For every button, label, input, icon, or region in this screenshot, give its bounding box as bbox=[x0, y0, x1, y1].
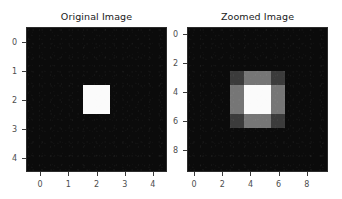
y-tick-label: 3 bbox=[12, 124, 17, 133]
image-pixel bbox=[299, 100, 313, 114]
image-pixel bbox=[216, 85, 230, 99]
image-pixel bbox=[257, 57, 271, 71]
y-tick-mark bbox=[22, 100, 26, 101]
y-tick-mark bbox=[22, 158, 26, 159]
image-pixel bbox=[83, 142, 111, 171]
x-tick-label: 8 bbox=[304, 180, 309, 189]
axes-zoomed-image bbox=[187, 27, 328, 172]
image-pixel bbox=[299, 128, 313, 142]
image-pixel bbox=[313, 100, 327, 114]
image-pixel bbox=[202, 128, 216, 142]
image-pixel bbox=[188, 100, 202, 114]
image-pixel bbox=[230, 28, 244, 42]
image-pixel bbox=[244, 100, 258, 114]
image-pixel bbox=[313, 157, 327, 171]
image-pixel bbox=[285, 28, 299, 42]
image-pixel bbox=[313, 128, 327, 142]
image-pixel bbox=[257, 157, 271, 171]
image-pixel bbox=[188, 42, 202, 56]
image-pixel bbox=[230, 85, 244, 99]
matplotlib-figure: Original Image 0123401234 Zoomed Image 0… bbox=[0, 0, 342, 199]
image-pixel bbox=[299, 71, 313, 85]
y-tick-label: 8 bbox=[173, 146, 178, 155]
image-pixel bbox=[27, 57, 55, 86]
image-pixel bbox=[230, 128, 244, 142]
image-pixel bbox=[83, 57, 111, 86]
image-pixel bbox=[271, 71, 285, 85]
image-pixel bbox=[244, 85, 258, 99]
y-tick-label: 2 bbox=[173, 59, 178, 68]
image-pixel bbox=[285, 100, 299, 114]
y-tick-mark bbox=[183, 92, 187, 93]
y-tick-mark bbox=[183, 121, 187, 122]
image-pixel bbox=[299, 57, 313, 71]
y-tick-mark bbox=[183, 150, 187, 151]
image-pixel bbox=[313, 85, 327, 99]
image-pixel bbox=[271, 28, 285, 42]
x-tick-label: 2 bbox=[94, 180, 99, 189]
x-tick-label: 6 bbox=[276, 180, 281, 189]
image-pixel bbox=[216, 57, 230, 71]
y-tick-label: 2 bbox=[12, 95, 17, 104]
image-pixel bbox=[313, 42, 327, 56]
image-pixel bbox=[216, 157, 230, 171]
y-tick-mark bbox=[22, 129, 26, 130]
y-tick-label: 6 bbox=[173, 117, 178, 126]
image-pixel bbox=[271, 42, 285, 56]
image-pixel bbox=[83, 114, 111, 143]
image-pixel bbox=[285, 42, 299, 56]
image-pixel bbox=[216, 142, 230, 156]
image-pixel bbox=[299, 28, 313, 42]
image-pixel bbox=[216, 28, 230, 42]
image-pixel bbox=[202, 42, 216, 56]
image-pixel bbox=[244, 157, 258, 171]
image-pixel bbox=[313, 114, 327, 128]
x-tick-label: 0 bbox=[192, 180, 197, 189]
x-tick-mark bbox=[194, 172, 195, 176]
image-pixel bbox=[244, 57, 258, 71]
image-pixel bbox=[257, 71, 271, 85]
image-pixel bbox=[271, 57, 285, 71]
image-pixel bbox=[313, 28, 327, 42]
image-pixel bbox=[271, 142, 285, 156]
x-tick-mark bbox=[222, 172, 223, 176]
image-pixel bbox=[244, 114, 258, 128]
image-pixel bbox=[188, 128, 202, 142]
image-pixel bbox=[271, 100, 285, 114]
x-tick-label: 0 bbox=[38, 180, 43, 189]
image-pixel bbox=[313, 142, 327, 156]
image-pixel bbox=[257, 28, 271, 42]
image-pixel bbox=[110, 114, 138, 143]
image-pixel bbox=[138, 114, 166, 143]
y-tick-label: 4 bbox=[12, 153, 17, 162]
x-tick-label: 1 bbox=[66, 180, 71, 189]
y-tick-mark bbox=[22, 71, 26, 72]
image-pixel bbox=[55, 28, 83, 57]
image-pixel bbox=[230, 71, 244, 85]
x-tick-mark bbox=[125, 172, 126, 176]
image-grid-zoomed bbox=[188, 28, 327, 171]
image-pixel bbox=[216, 128, 230, 142]
x-tick-mark bbox=[68, 172, 69, 176]
x-tick-label: 2 bbox=[220, 180, 225, 189]
image-pixel bbox=[202, 100, 216, 114]
image-pixel bbox=[285, 128, 299, 142]
image-pixel bbox=[27, 142, 55, 171]
image-pixel bbox=[257, 42, 271, 56]
image-pixel bbox=[285, 157, 299, 171]
image-pixel bbox=[188, 28, 202, 42]
image-pixel bbox=[244, 71, 258, 85]
image-pixel bbox=[299, 85, 313, 99]
image-pixel bbox=[138, 57, 166, 86]
x-tick-label: 3 bbox=[122, 180, 127, 189]
y-tick-mark bbox=[183, 63, 187, 64]
image-pixel bbox=[27, 85, 55, 114]
image-pixel bbox=[55, 114, 83, 143]
image-pixel bbox=[202, 114, 216, 128]
image-pixel bbox=[230, 114, 244, 128]
image-pixel bbox=[271, 128, 285, 142]
y-tick-label: 4 bbox=[173, 88, 178, 97]
image-pixel bbox=[83, 28, 111, 57]
image-pixel bbox=[216, 100, 230, 114]
x-tick-mark bbox=[307, 172, 308, 176]
